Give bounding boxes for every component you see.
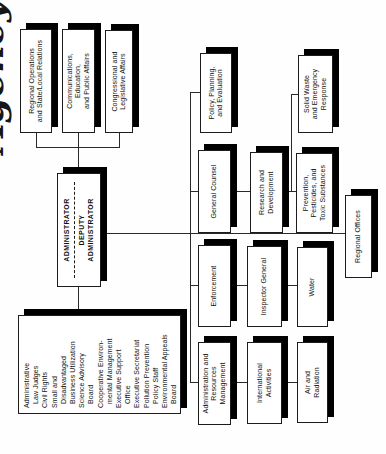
policy-planning-label: Policy, Planning, and Evaluation (208, 67, 225, 120)
connector-drop-col4 (190, 92, 200, 93)
research-development-label: Research and Development (258, 170, 275, 215)
regional-operations-label: Regional Operations and State/Local Rela… (28, 40, 45, 122)
connector-col3-r2-r3 (282, 191, 297, 192)
connector-col2-r2-r3 (282, 285, 297, 286)
connector-col1-r2-r3 (282, 382, 297, 383)
connector-col1-r1-r2 (231, 382, 247, 383)
congressional-label: Congressional and Legislative Affairs (111, 51, 128, 111)
connector-solidwaste-branch-h (291, 94, 292, 192)
box-regional-offices: Regional Offices (345, 195, 372, 278)
box-staff-offices: Administrative Law Judges Civil Rights S… (18, 315, 181, 414)
administration-resources-label: Administration and Resources Management (202, 354, 227, 414)
connector-bracket-stub-bottom (119, 133, 120, 148)
box-administrator: ADMINISTRATOR DEPUTY ADMINISTRATOR (57, 173, 101, 287)
connector-spine (100, 233, 345, 234)
box-policy-planning: Policy, Planning, and Evaluation (200, 53, 232, 133)
box-administration-resources: Administration and Resources Management (198, 342, 231, 425)
connector-drop-col3 (190, 191, 198, 192)
staff-offices-label: Administrative Law Judges Civil Rights S… (22, 334, 178, 408)
box-research-development: Research and Development (250, 152, 283, 233)
enforcement-label: Enforcement (210, 266, 218, 307)
connector-col2-r1-r2 (231, 285, 247, 286)
box-regional-operations: Regional Operations and State/Local Rela… (20, 29, 52, 133)
communications-label: Communications, Education, and Public Af… (66, 53, 91, 109)
box-international: International Activities (247, 342, 282, 424)
regional-offices-label: Regional Offices (354, 210, 362, 263)
connector-admin-to-right-bracket (78, 133, 79, 173)
connector-admin-to-staff (78, 287, 79, 315)
general-counsel-label: General Counsel (210, 164, 218, 218)
solid-waste-label: Solid Waste and Emergency Response (303, 69, 328, 119)
deputy-administrator-label: DEPUTY ADMINISTRATOR (78, 198, 95, 261)
connector-solidwaste-branch-v (291, 94, 298, 95)
air-radiation-label: Air and Radiation (304, 367, 321, 397)
box-water: Water (297, 247, 328, 327)
box-communications: Communications, Education, and Public Af… (62, 29, 95, 133)
org-chart-canvas: Agency ADMINISTRATOR DEPUTY ADMINISTRATO… (0, 0, 386, 454)
connector-col3-r1-r2 (230, 191, 250, 192)
box-inspector-general: Inspector General (247, 246, 282, 327)
connector-drop-col1 (190, 382, 198, 383)
box-solid-waste: Solid Waste and Emergency Response (298, 55, 333, 133)
connector-drop-col2 (190, 285, 198, 286)
administrator-dashed-divider (74, 182, 75, 278)
box-air-radiation: Air and Radiation (297, 342, 328, 423)
water-label: Water (308, 278, 316, 297)
box-prevention-pesticides: Prevention, Pesticides, and Toxic Substa… (296, 153, 333, 233)
administrator-label: ADMINISTRATOR (63, 198, 72, 261)
box-general-counsel: General Counsel (198, 150, 231, 233)
box-enforcement: Enforcement (198, 245, 231, 327)
connector-bracket-stub-top (36, 133, 37, 148)
org-chart-page: Agency ADMINISTRATOR DEPUTY ADMINISTRATO… (0, 0, 386, 454)
prevention-pesticides-label: Prevention, Pesticides, and Toxic Substa… (302, 165, 327, 221)
box-congressional: Congressional and Legislative Affairs (105, 30, 133, 133)
international-label: International Activities (256, 363, 273, 403)
connector-trunk (190, 92, 191, 383)
connector-right-bracket (36, 147, 120, 148)
page-title-clipped: Agency (0, 0, 9, 153)
inspector-general-label: Inspector General (260, 258, 268, 315)
